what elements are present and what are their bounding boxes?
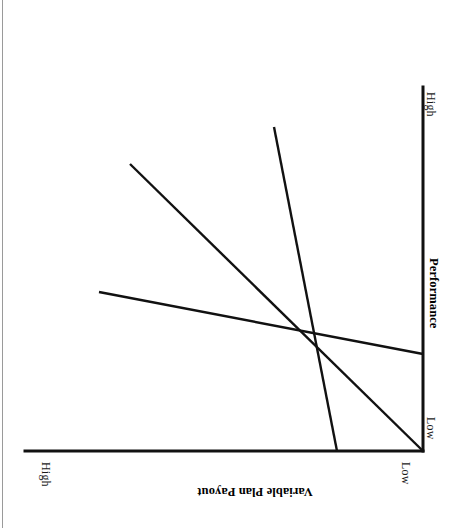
figure-container: High Low Performance High Low Variable P…	[0, 0, 459, 528]
plot-line-flat	[99, 292, 423, 354]
payout-high-tick-label: High	[40, 462, 52, 487]
performance-axis-title: Performance	[428, 258, 441, 329]
plot-canvas	[0, 0, 459, 528]
payout-axis-title: Variable Plan Payout	[190, 485, 320, 498]
payout-low-tick-label: Low	[400, 462, 412, 485]
plot-line-steep	[274, 127, 337, 451]
performance-high-tick-label: High	[425, 92, 437, 117]
performance-low-tick-label: Low	[425, 417, 437, 440]
